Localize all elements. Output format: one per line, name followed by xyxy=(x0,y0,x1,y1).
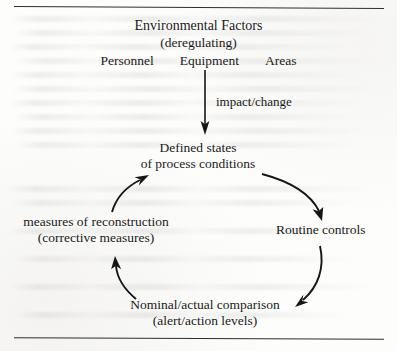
factor-equipment: Equipment xyxy=(180,53,239,69)
nominal-actual-line1: Nominal/actual comparison xyxy=(110,297,300,313)
frame-rule-top xyxy=(14,6,384,9)
node-nominal-actual-comparison: Nominal/actual comparison (alert/action … xyxy=(110,297,300,329)
arrow-impact-change xyxy=(201,70,210,135)
nominal-actual-line2: (alert/action levels) xyxy=(110,313,300,329)
impact-change-label: impact/change xyxy=(216,94,292,110)
figure-canvas: Environmental Factors (deregulating) Per… xyxy=(0,0,397,351)
node-measures-of-reconstruction: measures of reconstruction (corrective m… xyxy=(6,214,186,246)
environmental-factors-title: Environmental Factors xyxy=(0,18,397,35)
factor-personnel: Personnel xyxy=(101,53,154,69)
arrow-nominal-to-measures xyxy=(111,256,136,299)
defined-states-line2: of process conditions xyxy=(118,156,278,172)
environmental-factors-subtitle: (deregulating) xyxy=(0,35,397,51)
defined-states-line1: Defined states xyxy=(118,140,278,156)
arrow-measures-to-defined xyxy=(112,175,149,212)
measures-reconstruction-line2: (corrective measures) xyxy=(6,230,186,246)
routine-controls-line1: Routine controls xyxy=(276,222,396,238)
factor-areas: Areas xyxy=(265,53,296,69)
measures-reconstruction-line1: measures of reconstruction xyxy=(6,214,186,230)
frame-rule-bottom xyxy=(14,337,384,339)
node-routine-controls: Routine controls xyxy=(276,222,396,238)
node-defined-states: Defined states of process conditions xyxy=(118,140,278,172)
environmental-factor-row: Personnel Equipment Areas xyxy=(0,53,397,69)
arrow-defined-to-routine xyxy=(262,174,323,221)
node-environmental-factors: Environmental Factors (deregulating) xyxy=(0,18,397,50)
